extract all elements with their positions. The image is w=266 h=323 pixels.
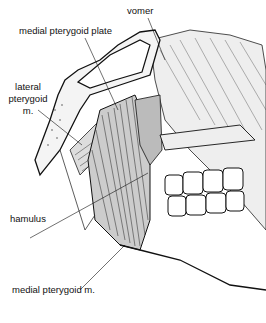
label-medial-pterygoid-plate: medial pterygoid plate [19,25,112,36]
label-lateral-pterygoid-2: pterygoid [4,93,52,104]
label-lateral-pterygoid-3: m. [8,105,48,116]
anatomical-illustration [0,0,266,323]
label-hamulus: hamulus [10,213,46,224]
mandible [120,245,266,290]
teeth [165,168,244,216]
label-lateral-pterygoid-1: lateral [8,81,48,92]
label-medial-pterygoid-muscle: medial pterygoid m. [12,284,95,295]
label-vomer: vomer [127,5,153,16]
